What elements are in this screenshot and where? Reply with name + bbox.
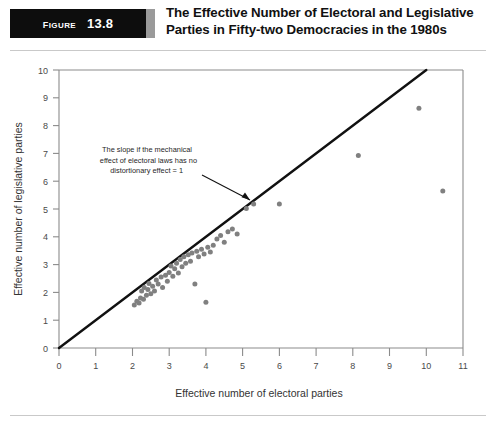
svg-text:10: 10 [421,361,431,371]
scatter-point [172,266,177,271]
svg-text:0: 0 [56,361,61,371]
svg-text:10: 10 [38,66,48,76]
scatter-point [440,188,445,193]
slope-annotation: The slope if the mechanical effect of el… [100,145,250,200]
scatter-point-group [132,106,446,308]
figure-number-badge: Figure 13.8 [10,9,146,38]
scatter-point [203,300,208,305]
scatter-point [189,250,194,255]
header-divider [10,50,486,51]
scatter-point [235,232,240,237]
svg-text:6: 6 [277,361,282,371]
x-axis-ticks: 0 1 2 3 4 5 6 7 8 9 10 11 [56,348,467,371]
scatter-point [150,284,155,289]
scatter-point [160,285,165,290]
x-axis-title: Effective number of electoral parties [175,387,342,399]
scatter-point [180,264,185,269]
figure-badge-number: 13.8 [87,16,113,31]
scatter-point [251,202,256,207]
scatter-point [192,282,197,287]
scatter-point [137,300,142,305]
scatter-point [167,270,172,275]
svg-text:4: 4 [203,361,208,371]
annotation-arrow-head [242,193,251,201]
scatter-point [199,247,204,252]
scatter-point [356,153,361,158]
svg-text:1: 1 [43,316,48,326]
scatter-point [165,279,170,284]
annotation-line-1: The slope if the mechanical [102,145,192,154]
badge-tail-accent [146,9,155,38]
annotation-line-2: effect of electoral laws has no [100,156,197,165]
figure-header: Figure 13.8 The Effective Number of Elec… [0,0,496,52]
y-axis-title: Effective number of legislative parties [12,122,24,296]
svg-text:7: 7 [314,361,319,371]
scatter-point [188,259,193,264]
svg-text:0: 0 [43,344,48,354]
svg-text:8: 8 [43,121,48,131]
scatter-point [156,282,161,287]
figure-title-line-2: Parties in Fifty-two Democracies in the … [166,22,486,39]
svg-text:5: 5 [43,205,48,215]
svg-text:1: 1 [93,361,98,371]
scatter-point [141,297,146,302]
scatter-point [194,249,199,254]
svg-text:4: 4 [43,232,48,242]
scatter-point [416,106,421,111]
scatter-point [152,289,157,294]
svg-text:8: 8 [350,361,355,371]
svg-text:2: 2 [130,361,135,371]
annotation-line-3: distortionary effect = 1 [110,166,183,175]
scatter-point [230,227,235,232]
plot-frame [59,70,463,348]
scatter-plot: 10 9 8 7 6 5 4 3 2 1 0 0 1 [0,52,496,415]
svg-text:9: 9 [387,361,392,371]
svg-text:3: 3 [167,361,172,371]
svg-text:5: 5 [240,361,245,371]
svg-text:7: 7 [43,149,48,159]
scatter-point [211,243,216,248]
figure-title: The Effective Number of Electoral and Le… [166,5,486,38]
scatter-point [214,237,219,242]
scatter-point [145,287,150,292]
svg-text:6: 6 [43,177,48,187]
scatter-point [181,254,186,259]
scatter-point [277,202,282,207]
scatter-point [183,261,188,266]
scatter-point [225,229,230,234]
scatter-point [176,270,181,275]
scatter-point [222,240,227,245]
scatter-point [208,250,213,255]
scatter-point [196,254,201,259]
reference-slope-line [59,70,426,348]
scatter-point [218,233,223,238]
svg-text:2: 2 [43,288,48,298]
scatter-point [205,245,210,250]
scatter-point [159,275,164,280]
svg-text:11: 11 [458,361,467,371]
figure-badge-word: Figure [43,16,76,31]
chart-container: 10 9 8 7 6 5 4 3 2 1 0 0 1 [0,52,496,415]
svg-text:9: 9 [43,93,48,103]
footer-divider [10,415,486,416]
y-axis-ticks: 10 9 8 7 6 5 4 3 2 1 0 [38,66,59,354]
svg-text:3: 3 [43,260,48,270]
scatter-point [244,206,249,211]
figure-title-line-1: The Effective Number of Electoral and Le… [166,5,486,22]
scatter-point [144,293,149,298]
scatter-point [170,274,175,279]
scatter-point [174,261,179,266]
scatter-point [202,252,207,257]
